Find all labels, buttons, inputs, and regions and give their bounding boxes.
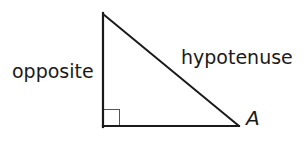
opposite-label: opposite <box>12 60 94 82</box>
right-angle-marker <box>104 110 120 126</box>
right-triangle-diagram: opposite hypotenuse A <box>0 0 308 144</box>
hypotenuse-side <box>103 14 239 126</box>
hypotenuse-label: hypotenuse <box>181 46 293 68</box>
angle-a-label: A <box>244 106 260 130</box>
